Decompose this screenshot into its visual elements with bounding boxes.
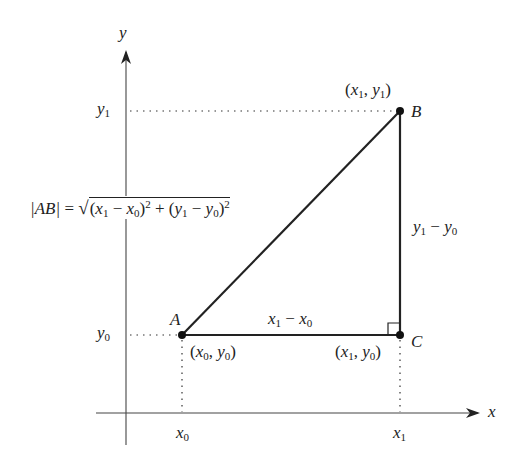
x1-tick-label: x1 (393, 424, 406, 441)
distance-formula: |AB| = √(x1 − x0)2 + (y1 − y0)2 (30, 196, 230, 219)
y-axis-label: y (119, 24, 127, 41)
point-C (396, 331, 404, 339)
point-A-label: A (170, 311, 180, 328)
point-B-coords: (x1, y1) (345, 81, 391, 98)
side-BC-label: y1 − y0 (413, 218, 457, 235)
side-AC-label: x1 − x0 (268, 310, 312, 327)
point-A-coords: (x0, y0) (190, 343, 236, 360)
y1-tick-label: y1 (97, 100, 110, 117)
sqrt-icon: √ (78, 197, 88, 218)
side-AB (182, 111, 400, 335)
x-axis-label: x (488, 403, 496, 420)
distance-diagram: y x y1 y0 x0 x1 A B C (x1, y1) (x0, y0) … (0, 0, 527, 462)
point-A (178, 331, 186, 339)
formula-lhs: |AB| (30, 199, 60, 218)
y0-tick-label: y0 (97, 324, 110, 341)
x0-tick-label: x0 (176, 424, 189, 441)
point-B-label: B (411, 103, 421, 120)
point-C-label: C (411, 333, 422, 350)
point-C-coords: (x1, y0) (335, 343, 381, 360)
formula-radicand: (x1 − x0)2 + (y1 − y0)2 (89, 197, 230, 218)
point-B (396, 107, 404, 115)
